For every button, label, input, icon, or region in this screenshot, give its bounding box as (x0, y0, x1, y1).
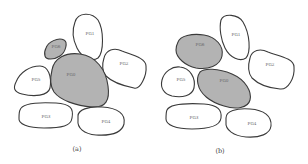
panel-b: PG1 PG2 PG6 PG0 PG5 PG3 PG4 (b) (161, 15, 294, 155)
region-b-upper-left (176, 34, 222, 68)
region-a-right (103, 49, 146, 88)
label-b-center: PG0 (220, 78, 229, 83)
region-b-right (249, 50, 294, 89)
label-b-top: PG1 (232, 32, 241, 37)
label-a-bottom-right: PG4 (102, 119, 111, 124)
caption-b: (b) (215, 147, 225, 155)
panel-a: PG1 PG2 PG6 PG0 PG5 PG3 PG4 (a) (14, 14, 146, 153)
region-a-top (73, 14, 102, 59)
region-a-center (51, 54, 109, 107)
label-b-left: PG5 (177, 77, 186, 82)
label-b-bottom-left: PG3 (190, 115, 199, 120)
label-a-center: PG0 (67, 72, 76, 77)
caption-a: (a) (73, 145, 82, 153)
label-a-top: PG1 (86, 31, 95, 36)
label-b-upper-left: PG6 (196, 42, 205, 47)
label-a-small: PG6 (52, 44, 61, 49)
region-b-center (198, 69, 251, 108)
label-b-right: PG2 (266, 62, 275, 67)
label-a-right: PG2 (120, 61, 129, 66)
label-a-bottom-left: PG3 (42, 114, 51, 119)
label-b-bottom-right: PG4 (248, 121, 257, 126)
label-a-left: PG5 (32, 77, 41, 82)
figure: PG1 PG2 PG6 PG0 PG5 PG3 PG4 (a) PG1 PG2 … (0, 0, 308, 164)
region-b-top (220, 15, 249, 59)
